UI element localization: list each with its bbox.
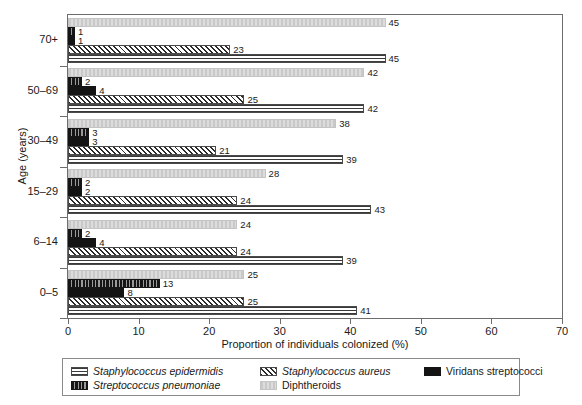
bar-diagonal-hatch (68, 146, 216, 155)
bar-solid-black (68, 238, 96, 247)
age-group-row: 251382541 (68, 268, 562, 319)
bar-horizontal-lines (68, 205, 371, 214)
bar-row: 4 (68, 86, 562, 95)
y-axis-tick-label: 15–29 (6, 186, 58, 197)
legend: Staphylococcus epidermidisStaphylococcus… (62, 358, 520, 396)
bar-solid-black (68, 187, 82, 196)
bar-light-grey (68, 169, 266, 178)
x-axis-tick-label: 40 (344, 325, 356, 337)
bar-row: 2 (68, 77, 562, 86)
x-axis-tick-label: 10 (132, 325, 144, 337)
age-group-row: 45112345 (68, 15, 562, 66)
legend-swatch-diagonal-hatch (260, 367, 277, 376)
legend-label: Streptococcus pneumoniae (93, 379, 220, 391)
bar-vertical-ticks (68, 128, 89, 137)
bar-value-label: 41 (360, 305, 371, 316)
legend-swatch-horizontal-lines (71, 367, 88, 376)
bar-row: 1 (68, 27, 562, 36)
bar-row: 39 (68, 155, 562, 164)
bar-stack: 38332139 (68, 119, 562, 164)
bar-row: 23 (68, 45, 562, 54)
bar-diagonal-hatch (68, 196, 237, 205)
legend-label: Diphtheroids (282, 379, 341, 391)
bar-row: 1 (68, 36, 562, 45)
y-axis-title: Age (years) (16, 86, 28, 226)
x-axis-tick-label: 50 (415, 325, 427, 337)
y-axis-tick-label: 0–5 (6, 287, 58, 298)
bar-horizontal-lines (68, 104, 364, 113)
bar-vertical-ticks (68, 229, 82, 238)
bar-solid-black (68, 86, 96, 95)
bar-light-grey (68, 220, 237, 229)
bar-stack: 42242542 (68, 68, 562, 113)
x-axis-tick (139, 318, 140, 324)
bar-solid-black (68, 288, 124, 297)
bar-stack: 251382541 (68, 270, 562, 315)
bar-vertical-ticks (68, 77, 82, 86)
x-axis-tick-label: 60 (485, 325, 497, 337)
y-axis-tick-label: 70+ (6, 34, 58, 45)
bar-value-label: 45 (389, 53, 400, 64)
x-axis-tick-label: 0 (65, 325, 71, 337)
x-axis-tick-label: 30 (274, 325, 286, 337)
bar-row: 38 (68, 119, 562, 128)
legend-item: Staphylococcus epidermidis (71, 365, 256, 377)
bar-row: 25 (68, 95, 562, 104)
bar-row: 24 (68, 220, 562, 229)
bar-row: 42 (68, 104, 562, 113)
legend-label: Staphylococcus epidermidis (93, 365, 223, 377)
bar-row: 8 (68, 288, 562, 297)
y-axis-tick-label: 30–49 (6, 135, 58, 146)
age-group-row: 28222443 (68, 167, 562, 218)
bar-vertical-ticks (68, 27, 75, 36)
bar-horizontal-lines (68, 54, 386, 63)
x-axis-title: Proportion of individuals colonized (%) (67, 338, 563, 350)
x-axis-tick-label: 70 (556, 325, 568, 337)
bar-diagonal-hatch (68, 95, 244, 104)
bar-horizontal-lines (68, 306, 357, 315)
bar-horizontal-lines (68, 256, 343, 265)
bar-row: 43 (68, 205, 562, 214)
bar-row: 25 (68, 297, 562, 306)
bar-row: 2 (68, 229, 562, 238)
y-axis-tick (60, 268, 67, 269)
bar-stack: 28222443 (68, 169, 562, 214)
legend-item: Streptococcus pneumoniae (71, 379, 256, 391)
bar-solid-black (68, 36, 75, 45)
x-axis-tick (280, 318, 281, 324)
legend-swatch-vertical-ticks (71, 381, 88, 390)
legend-item: Diphtheroids (260, 379, 420, 391)
bar-row: 4 (68, 238, 562, 247)
bar-value-label: 43 (374, 204, 385, 215)
x-axis-tick (350, 318, 351, 324)
bar-vertical-ticks (68, 178, 82, 187)
legend-grid: Staphylococcus epidermidisStaphylococcus… (71, 364, 511, 392)
bar-row: 45 (68, 54, 562, 63)
chart-figure: Age (years) 70+4511234550–694224254230–4… (0, 0, 582, 405)
bar-row: 3 (68, 128, 562, 137)
bar-row: 41 (68, 306, 562, 315)
bar-row: 24 (68, 196, 562, 205)
y-axis-tick (60, 167, 67, 168)
bar-light-grey (68, 68, 364, 77)
bar-row: 2 (68, 187, 562, 196)
legend-label: Viridans streptococci (446, 365, 543, 377)
bar-vertical-ticks (68, 279, 160, 288)
bar-light-grey (68, 270, 244, 279)
bar-row: 42 (68, 68, 562, 77)
y-axis-tick-label: 6–14 (6, 236, 58, 247)
age-group-row: 38332139 (68, 116, 562, 167)
bar-value-label: 39 (346, 154, 357, 165)
x-axis-tick (68, 318, 69, 324)
bar-diagonal-hatch (68, 297, 244, 306)
bar-horizontal-lines (68, 155, 343, 164)
legend-item: Staphylococcus aureus (260, 365, 420, 377)
bar-light-grey (68, 119, 336, 128)
age-group-row: 24242439 (68, 217, 562, 268)
y-axis-tick (60, 66, 67, 67)
y-axis-tick (60, 116, 67, 117)
bar-value-label: 42 (367, 103, 378, 114)
x-axis-tick-label: 20 (203, 325, 215, 337)
x-axis-tick (209, 318, 210, 324)
bar-stack: 45112345 (68, 18, 562, 63)
